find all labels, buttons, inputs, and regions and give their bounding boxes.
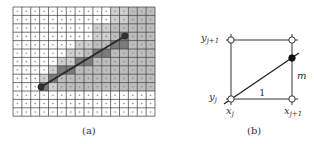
cell-center-dot [132, 86, 134, 88]
cell-center-dot [105, 52, 107, 54]
cell-center-dot [105, 19, 107, 21]
cell-center-dot [34, 111, 36, 113]
cell-center-dot [52, 27, 54, 29]
cell-center-dot [88, 86, 90, 88]
cell-center-dot [105, 94, 107, 96]
cell-center-dot [123, 44, 125, 46]
cell-center-dot [17, 36, 19, 38]
cell-center-dot [114, 10, 116, 12]
cell-center-dot [114, 36, 116, 38]
label-x-j: xj [226, 106, 234, 118]
cell-center-dot [114, 27, 116, 29]
cell-center-dot [150, 111, 152, 113]
cell-center-dot [70, 52, 72, 54]
label-run-one: 1 [259, 88, 265, 98]
cell-center-dot [150, 44, 152, 46]
cell-center-dot [132, 19, 134, 21]
cell-center-dot [97, 19, 99, 21]
cell-center-dot [141, 86, 143, 88]
cell-center-dot [97, 111, 99, 113]
panel-a-grid-diagram [13, 7, 155, 116]
cell-center-dot [141, 27, 143, 29]
cell-center-dot [61, 111, 63, 113]
cell-center-dot [61, 86, 63, 88]
cell-center-dot [61, 52, 63, 54]
cell-center-dot [79, 94, 81, 96]
cell-center-dot [43, 19, 45, 21]
cell-center-dot [34, 44, 36, 46]
cell-center-dot [61, 103, 63, 105]
cell-center-dot [141, 94, 143, 96]
cell-center-dot [43, 52, 45, 54]
cell-center-dot [26, 36, 28, 38]
cell-center-dot [132, 94, 134, 96]
cell-center-dot [123, 69, 125, 71]
cell-center-dot [114, 94, 116, 96]
cell-center-dot [26, 52, 28, 54]
cell-center-dot [34, 78, 36, 80]
label-subscript: j+1 [290, 110, 303, 118]
cell-center-dot [26, 10, 28, 12]
cell-center-dot [105, 36, 107, 38]
cell-center-dot [17, 103, 19, 105]
cell-center-dot [52, 69, 54, 71]
label-subscript: j [215, 96, 217, 104]
cell-center-dot [70, 61, 72, 63]
caption-b: (b) [247, 125, 261, 136]
cell-center-dot [141, 52, 143, 54]
cell-center-dot [61, 61, 63, 63]
label-x-j-plus-1: xj+1 [284, 106, 302, 118]
cell-center-dot [105, 111, 107, 113]
cell-center-dot [70, 103, 72, 105]
cell-center-dot [141, 111, 143, 113]
cell-center-dot [70, 10, 72, 12]
cell-center-dot [88, 36, 90, 38]
cell-center-dot [97, 69, 99, 71]
cell-center-dot [26, 44, 28, 46]
cell-center-dot [34, 10, 36, 12]
cell-center-dot [17, 44, 19, 46]
corner-top-right-icon [289, 37, 295, 43]
cell-center-dot [114, 52, 116, 54]
cell-center-dot [132, 69, 134, 71]
cell-center-dot [114, 78, 116, 80]
cell-center-dot [88, 10, 90, 12]
cell-center-dot [17, 78, 19, 80]
cell-center-dot [79, 78, 81, 80]
cell-center-dot [17, 94, 19, 96]
cell-center-dot [43, 44, 45, 46]
cell-center-dot [70, 36, 72, 38]
figure-canvas [0, 0, 314, 144]
cell-center-dot [61, 27, 63, 29]
cell-center-dot [26, 19, 28, 21]
cell-center-dot [52, 86, 54, 88]
cell-center-dot [150, 86, 152, 88]
caption-a: (a) [82, 125, 96, 136]
cell-center-dot [79, 103, 81, 105]
cell-center-dot [132, 61, 134, 63]
cell-center-dot [43, 94, 45, 96]
cell-center-dot [97, 44, 99, 46]
cell-center-dot [114, 19, 116, 21]
cell-center-dot [17, 27, 19, 29]
label-y-j: yj [209, 92, 217, 104]
cell-center-dot [26, 78, 28, 80]
cell-center-dot [141, 36, 143, 38]
cell-center-dot [88, 61, 90, 63]
cell-center-dot [26, 27, 28, 29]
cell-center-dot [141, 19, 143, 21]
cell-center-dot [105, 103, 107, 105]
cell-center-dot [79, 27, 81, 29]
cell-center-dot [79, 36, 81, 38]
cell-center-dot [52, 19, 54, 21]
cell-center-dot [17, 52, 19, 54]
cell-center-dot [88, 69, 90, 71]
cell-center-dot [26, 103, 28, 105]
end-point-icon [122, 33, 128, 39]
cell-center-dot [114, 61, 116, 63]
cell-center-dot [17, 19, 19, 21]
corner-top-left-icon [228, 37, 234, 43]
label-subscript: j [232, 110, 234, 118]
cell-center-dot [105, 44, 107, 46]
intersection-point-icon [289, 55, 295, 61]
